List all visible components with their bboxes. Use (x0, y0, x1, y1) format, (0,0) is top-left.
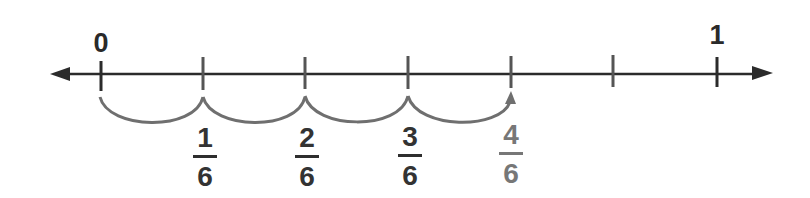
denominator: 6 (499, 160, 523, 188)
label-one: 1 (709, 22, 724, 49)
right-arrow-icon (752, 66, 773, 80)
numerator: 3 (398, 123, 422, 151)
jump-arc-1 (100, 97, 203, 123)
jump-arc-2 (203, 97, 305, 123)
label-zero: 0 (93, 30, 108, 57)
numerator: 4 (499, 121, 523, 149)
fraction-label-2-6: 2 6 (295, 124, 319, 191)
jump-arrow-icon (505, 91, 516, 104)
denominator: 6 (295, 163, 319, 191)
denominator: 6 (398, 162, 422, 190)
denominator: 6 (193, 163, 217, 191)
numerator: 1 (193, 124, 217, 152)
fraction-label-1-6: 1 6 (193, 124, 217, 191)
jump-arc-4 (408, 96, 510, 122)
fraction-label-3-6: 3 6 (398, 123, 422, 190)
jump-arcs (100, 96, 510, 123)
fraction-bar (295, 155, 319, 158)
numerator: 2 (295, 124, 319, 152)
left-arrow-icon (50, 67, 70, 81)
fraction-label-4-6: 4 6 (499, 121, 523, 188)
jump-arc-3 (305, 96, 408, 122)
fraction-bar (193, 155, 217, 158)
fraction-bar (398, 154, 422, 157)
fraction-bar (499, 152, 523, 155)
